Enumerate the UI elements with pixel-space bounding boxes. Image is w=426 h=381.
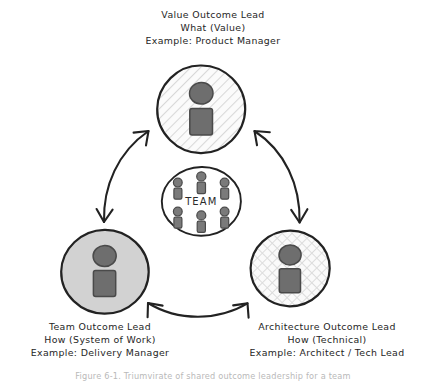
connector-value-to-architecture — [255, 131, 308, 223]
node-architecture-outcome-lead — [251, 231, 330, 307]
person-icon-architecture — [279, 245, 301, 293]
node-team-center: TEAM — [162, 167, 241, 236]
team-member-icon-3 — [220, 178, 229, 199]
team-member-icon-2 — [173, 178, 182, 199]
team-member-icon-5 — [220, 207, 229, 228]
team-member-icon-1 — [197, 172, 206, 194]
figure-caption: Figure 6-1. Triumvirate of shared outcom… — [0, 371, 426, 381]
node-team-outcome-lead — [61, 230, 149, 314]
connector-team-to-value — [97, 131, 149, 222]
connector-team-to-architecture — [148, 303, 249, 318]
team-center-label: TEAM — [184, 196, 217, 207]
team-member-icon-6 — [197, 211, 206, 233]
person-icon-team — [93, 246, 116, 297]
person-icon-value — [189, 83, 213, 135]
team-member-icon-4 — [173, 207, 182, 228]
node-value-outcome-lead — [157, 65, 245, 153]
